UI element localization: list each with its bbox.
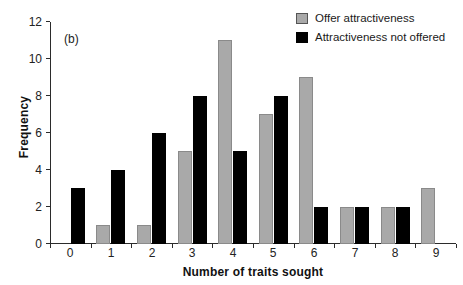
y-tick-label: 0 xyxy=(20,237,42,251)
y-tick-mark xyxy=(46,21,50,22)
bar xyxy=(381,207,395,244)
y-tick-mark xyxy=(46,58,50,59)
bar xyxy=(299,77,313,244)
y-tick-mark xyxy=(46,169,50,170)
legend-item: Attractiveness not offered xyxy=(296,29,463,45)
legend-label-offer-attractiveness: Offer attractiveness xyxy=(315,12,415,24)
panel-label: (b) xyxy=(64,32,79,46)
legend: Offer attractiveness Attractiveness not … xyxy=(296,10,463,48)
bars-container xyxy=(50,22,456,244)
bar xyxy=(178,151,192,244)
bar xyxy=(340,207,354,244)
bar xyxy=(193,96,207,244)
x-tick-mark xyxy=(456,244,457,248)
plot-area xyxy=(50,22,456,244)
bar xyxy=(111,170,125,244)
x-axis-title: Number of traits sought xyxy=(50,265,456,279)
x-tick-label: 5 xyxy=(258,246,288,260)
x-tick-label: 6 xyxy=(299,246,329,260)
bar xyxy=(137,225,151,244)
bar xyxy=(96,225,110,244)
y-tick-mark xyxy=(46,132,50,133)
bar xyxy=(421,188,435,244)
x-tick-label: 1 xyxy=(96,246,126,260)
y-tick-label: 8 xyxy=(20,89,42,103)
y-tick-label: 2 xyxy=(20,200,42,214)
x-tick-label: 0 xyxy=(55,246,85,260)
legend-swatch-offer-attractiveness xyxy=(296,13,308,24)
bar xyxy=(314,207,328,244)
bar xyxy=(233,151,247,244)
bar xyxy=(274,96,288,244)
y-tick-label: 4 xyxy=(20,163,42,177)
y-axis-tick-labels: 024681012 xyxy=(16,0,42,285)
bar xyxy=(259,114,273,244)
y-tick-label: 10 xyxy=(20,52,42,66)
legend-item: Offer attractiveness xyxy=(296,10,463,26)
x-tick-label: 7 xyxy=(340,246,370,260)
x-tick-label: 3 xyxy=(177,246,207,260)
bar xyxy=(71,188,85,244)
bar xyxy=(152,133,166,244)
bar xyxy=(396,207,410,244)
x-tick-label: 2 xyxy=(137,246,167,260)
y-tick-label: 6 xyxy=(20,126,42,140)
y-tick-mark xyxy=(46,206,50,207)
legend-label-attractiveness-not-offered: Attractiveness not offered xyxy=(315,31,445,43)
x-tick-label: 4 xyxy=(218,246,248,260)
x-tick-label: 9 xyxy=(421,246,451,260)
bar xyxy=(218,40,232,244)
legend-swatch-attractiveness-not-offered xyxy=(296,32,308,43)
x-axis-tick-labels: 0123456789 xyxy=(50,246,456,264)
y-tick-label: 12 xyxy=(20,15,42,29)
bar xyxy=(355,207,369,244)
x-tick-label: 8 xyxy=(380,246,410,260)
y-tick-mark xyxy=(46,95,50,96)
figure-histogram-traits-sought: Frequency 024681012 0123456789 Number of… xyxy=(0,0,463,285)
